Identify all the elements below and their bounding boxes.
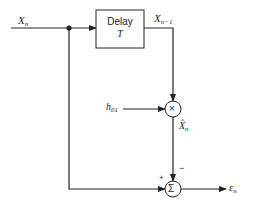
delay-time-label: T xyxy=(96,29,144,39)
delayed-output-label: Xn−1 xyxy=(154,13,172,26)
output-label: εn xyxy=(229,182,237,195)
plus-sign: + xyxy=(159,174,164,182)
multiply-icon: × xyxy=(169,104,175,114)
input-label: Xn xyxy=(18,15,28,28)
coefficient-label: h01 xyxy=(106,102,118,114)
minus-sign: − xyxy=(179,164,184,173)
prediction-label: X̂n xyxy=(179,121,189,133)
block-diagram: Xn Delay T Xn−1 h01 × X̂n Σ + − εn xyxy=(0,0,256,214)
delay-label: Delay xyxy=(96,17,144,27)
delay-output-arrow xyxy=(144,28,173,101)
sigma-icon: Σ xyxy=(168,184,174,194)
